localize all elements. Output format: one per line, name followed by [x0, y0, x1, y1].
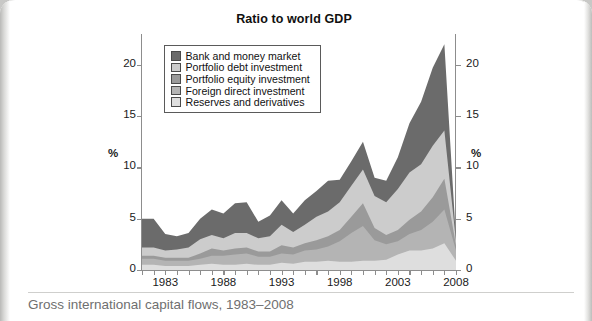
legend-item-label: Bank and money market	[186, 50, 301, 62]
x-tick-mark	[189, 271, 190, 275]
legend-item-label: Reserves and derivatives	[186, 96, 305, 108]
x-tick-mark	[351, 271, 352, 275]
y-tick-label: 5	[110, 211, 136, 223]
x-tick-mark	[165, 271, 166, 275]
y-tick-label: 10	[110, 159, 136, 171]
x-tick-label: 1983	[143, 276, 187, 288]
x-tick-mark	[270, 271, 271, 275]
legend-swatch-icon	[171, 63, 181, 73]
legend-item: Bank and money market	[171, 50, 310, 62]
x-tick-mark	[375, 271, 376, 275]
x-tick-mark	[177, 271, 178, 275]
y-tick-label: 20	[110, 57, 136, 69]
x-tick-mark	[154, 271, 155, 275]
legend-swatch-icon	[171, 74, 181, 84]
page-bleed-artifact	[300, 313, 550, 321]
y-tick-label: 0	[110, 262, 136, 274]
y-tick-mark	[456, 167, 461, 168]
legend-item-label: Foreign direct investment	[186, 85, 305, 97]
x-tick-label: 2003	[376, 276, 420, 288]
legend-item: Portfolio equity investment	[171, 73, 310, 85]
y-tick-label: 15	[466, 108, 492, 120]
legend-item-label: Portfolio equity investment	[186, 73, 310, 85]
y-tick-label: 0	[466, 262, 492, 274]
x-tick-mark	[200, 271, 201, 275]
x-tick-mark	[444, 271, 445, 275]
x-tick-label: 1998	[318, 276, 362, 288]
y-tick-mark	[456, 65, 461, 66]
y-axis-right-label: %	[471, 147, 481, 159]
x-tick-mark	[316, 271, 317, 275]
legend-item: Foreign direct investment	[171, 85, 310, 97]
x-tick-mark	[142, 271, 143, 275]
x-tick-label: 1993	[260, 276, 304, 288]
chart-legend: Bank and money marketPortfolio debt inve…	[164, 45, 321, 113]
x-tick-mark	[293, 271, 294, 275]
x-tick-mark	[363, 271, 364, 275]
figure-caption: Gross international capital flows, 1983–…	[28, 297, 294, 312]
x-tick-mark	[409, 271, 410, 275]
x-tick-mark	[282, 271, 283, 275]
x-tick-mark	[247, 271, 248, 275]
y-tick-label: 10	[466, 159, 492, 171]
x-tick-label: 2008	[434, 276, 478, 288]
x-tick-mark	[305, 271, 306, 275]
legend-item: Portfolio debt investment	[171, 62, 310, 74]
x-tick-mark	[386, 271, 387, 275]
x-tick-mark	[212, 271, 213, 275]
legend-item-label: Portfolio debt investment	[186, 61, 303, 73]
legend-swatch-icon	[171, 86, 181, 96]
x-tick-mark	[340, 271, 341, 275]
chart-figure: Ratio to world GDP % % 05101520 05101520…	[16, 4, 572, 286]
x-tick-mark	[398, 271, 399, 275]
legend-swatch-icon	[171, 51, 181, 61]
x-tick-mark	[223, 271, 224, 275]
y-tick-label: 20	[466, 57, 492, 69]
x-tick-mark	[456, 271, 457, 275]
legend-swatch-icon	[171, 97, 181, 107]
x-tick-mark	[258, 271, 259, 275]
x-tick-mark	[328, 271, 329, 275]
x-tick-mark	[421, 271, 422, 275]
chart-title: Ratio to world GDP	[16, 12, 572, 26]
x-tick-mark	[433, 271, 434, 275]
x-tick-mark	[235, 271, 236, 275]
caption-divider	[28, 292, 574, 293]
y-tick-mark	[456, 116, 461, 117]
legend-item: Reserves and derivatives	[171, 96, 310, 108]
y-axis-left-label: %	[108, 147, 118, 159]
y-tick-label: 5	[466, 211, 492, 223]
x-tick-label: 1988	[201, 276, 245, 288]
page: Ratio to world GDP % % 05101520 05101520…	[0, 0, 592, 321]
y-tick-label: 15	[110, 108, 136, 120]
y-tick-mark	[456, 219, 461, 220]
